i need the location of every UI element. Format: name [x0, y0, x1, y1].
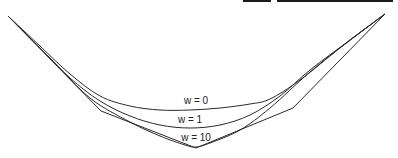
label-w10: w = 10	[181, 132, 211, 143]
label-w1: w = 1	[178, 114, 202, 125]
curve-w1	[8, 14, 385, 128]
curve-w10	[8, 14, 385, 147]
label-w0: w = 0	[184, 95, 208, 106]
